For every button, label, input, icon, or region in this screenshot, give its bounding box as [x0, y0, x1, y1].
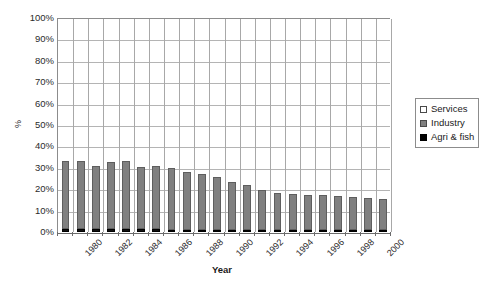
stacked-bar-chart: 0%10%20%30%40%50%60%70%80%90%100% % 1980…: [0, 0, 498, 286]
y-axis-tick-label: 90%: [12, 34, 54, 44]
agri-swatch-icon: [420, 134, 427, 141]
bar-segment-industry: [168, 168, 176, 230]
chart-legend: ServicesIndustryAgri & fish: [415, 98, 479, 148]
bar-stack: [137, 18, 145, 232]
bar-segment-industry: [198, 174, 206, 230]
x-axis-tick-label: 1980: [82, 237, 103, 258]
x-axis-tick: [208, 232, 209, 236]
y-axis-tick-label: 80%: [12, 56, 54, 66]
bar-stack: [213, 18, 221, 232]
x-axis-tick-label: 1998: [355, 237, 376, 258]
x-axis-tick: [314, 232, 315, 236]
bar-stack: [274, 18, 282, 232]
bar-segment-industry: [152, 166, 160, 230]
x-axis-tick-label: 1982: [113, 237, 134, 258]
bar-segment-industry: [228, 182, 236, 229]
bar-segment-industry: [183, 172, 191, 230]
bar-stack: [289, 18, 297, 232]
legend-item-label: Agri & fish: [431, 132, 474, 142]
x-axis-tick: [102, 232, 103, 236]
x-axis-tick: [57, 232, 58, 236]
legend-item: Industry: [420, 116, 474, 130]
legend-item: Services: [420, 102, 474, 116]
bar-segment-industry: [258, 190, 266, 230]
x-axis-tick: [299, 232, 300, 236]
bar-stack: [107, 18, 115, 232]
gridline-vertical: [391, 19, 392, 232]
bar-stack: [319, 18, 327, 232]
bar-segment-industry: [364, 198, 372, 230]
y-axis-tick-label: 0%: [12, 227, 54, 237]
bar-stack: [228, 18, 236, 232]
bar-stack: [243, 18, 251, 232]
bar-stack: [168, 18, 176, 232]
x-axis-tick-label: 1996: [325, 237, 346, 258]
bar-segment-industry: [137, 167, 145, 230]
bar-stack: [258, 18, 266, 232]
bar-segment-industry: [92, 166, 100, 229]
x-axis-tick-label: 2000: [385, 237, 406, 258]
bar-series-container: [58, 19, 390, 232]
x-axis-tick-label: 1986: [173, 237, 194, 258]
bar-stack: [62, 18, 70, 232]
bar-stack: [304, 18, 312, 232]
x-axis-tick-label: 1992: [264, 237, 285, 258]
industry-swatch-icon: [420, 120, 427, 127]
x-axis-tick: [345, 232, 346, 236]
bar-stack: [183, 18, 191, 232]
bar-segment-industry: [107, 162, 115, 228]
x-axis-tick-label: 1994: [294, 237, 315, 258]
x-axis-tick: [193, 232, 194, 236]
x-axis-tick: [178, 232, 179, 236]
legend-item-label: Industry: [431, 118, 465, 128]
bar-segment-industry: [319, 195, 327, 230]
x-axis-tick: [360, 232, 361, 236]
x-axis-tick: [269, 232, 270, 236]
x-axis-tick: [329, 232, 330, 236]
bar-stack: [152, 18, 160, 232]
bar-segment-industry: [334, 196, 342, 230]
bar-stack: [364, 18, 372, 232]
legend-item: Agri & fish: [420, 130, 474, 144]
legend-item-label: Services: [431, 104, 467, 114]
y-axis-tick-label: 100%: [12, 13, 54, 23]
bar-segment-industry: [77, 161, 85, 228]
plot-area: [57, 18, 390, 232]
bar-stack: [198, 18, 206, 232]
bar-stack: [349, 18, 357, 232]
y-axis-tick-label: 10%: [12, 206, 54, 216]
x-axis-tick: [390, 232, 391, 236]
bar-segment-industry: [213, 177, 221, 229]
bar-segment-industry: [122, 161, 130, 229]
bar-segment-industry: [349, 197, 357, 230]
y-axis-tick-label: 40%: [12, 141, 54, 151]
x-axis-tick: [375, 232, 376, 236]
x-axis-tick: [87, 232, 88, 236]
bar-segment-industry: [274, 193, 282, 230]
y-axis-tick-labels: 0%10%20%30%40%50%60%70%80%90%100%: [6, 0, 54, 286]
bar-segment-industry: [379, 199, 387, 230]
x-axis-tick: [133, 232, 134, 236]
x-axis-tick: [239, 232, 240, 236]
x-axis-tick: [284, 232, 285, 236]
x-axis-tick: [148, 232, 149, 236]
y-axis-tick-label: 30%: [12, 163, 54, 173]
bar-segment-industry: [304, 195, 312, 230]
x-axis-tick-label: 1988: [204, 237, 225, 258]
x-axis-tick: [118, 232, 119, 236]
bar-segment-industry: [62, 161, 70, 228]
bar-segment-industry: [289, 194, 297, 230]
y-axis-title: %: [13, 120, 23, 128]
x-axis-tick: [224, 232, 225, 236]
x-axis-tick: [163, 232, 164, 236]
x-axis-tick-label: 1984: [143, 237, 164, 258]
y-axis-tick-label: 70%: [12, 77, 54, 87]
bar-stack: [122, 18, 130, 232]
y-axis-tick-label: 20%: [12, 184, 54, 194]
x-axis-tick: [72, 232, 73, 236]
bar-stack: [379, 18, 387, 232]
x-axis-tick-label: 1990: [234, 237, 255, 258]
bar-stack: [334, 18, 342, 232]
x-axis-title: Year: [0, 264, 444, 275]
y-axis-tick-label: 60%: [12, 99, 54, 109]
